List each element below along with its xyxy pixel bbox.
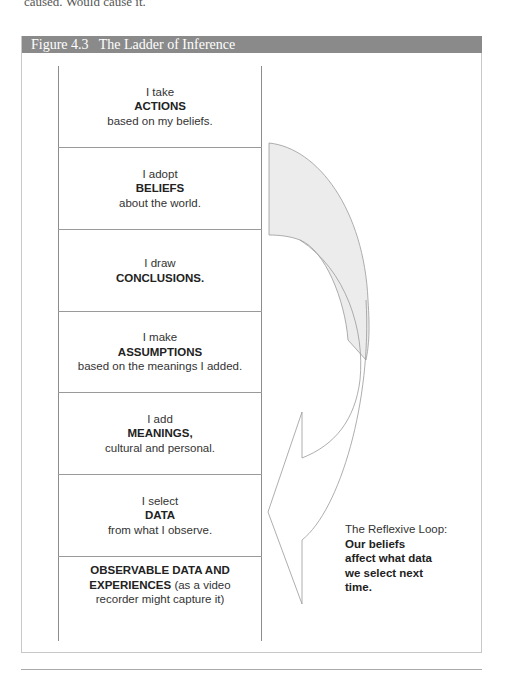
reflexive-loop-note: The Reflexive Loop: Our beliefs affect w… [345,522,447,595]
loop-label: The Reflexive Loop: [345,523,447,535]
loop-text-line: Our beliefs [345,537,447,552]
page-separator [21,669,482,670]
loop-text-line: affect what data [345,551,447,566]
loop-text-line: we select next [345,566,447,581]
loop-text-line: time. [345,580,447,595]
